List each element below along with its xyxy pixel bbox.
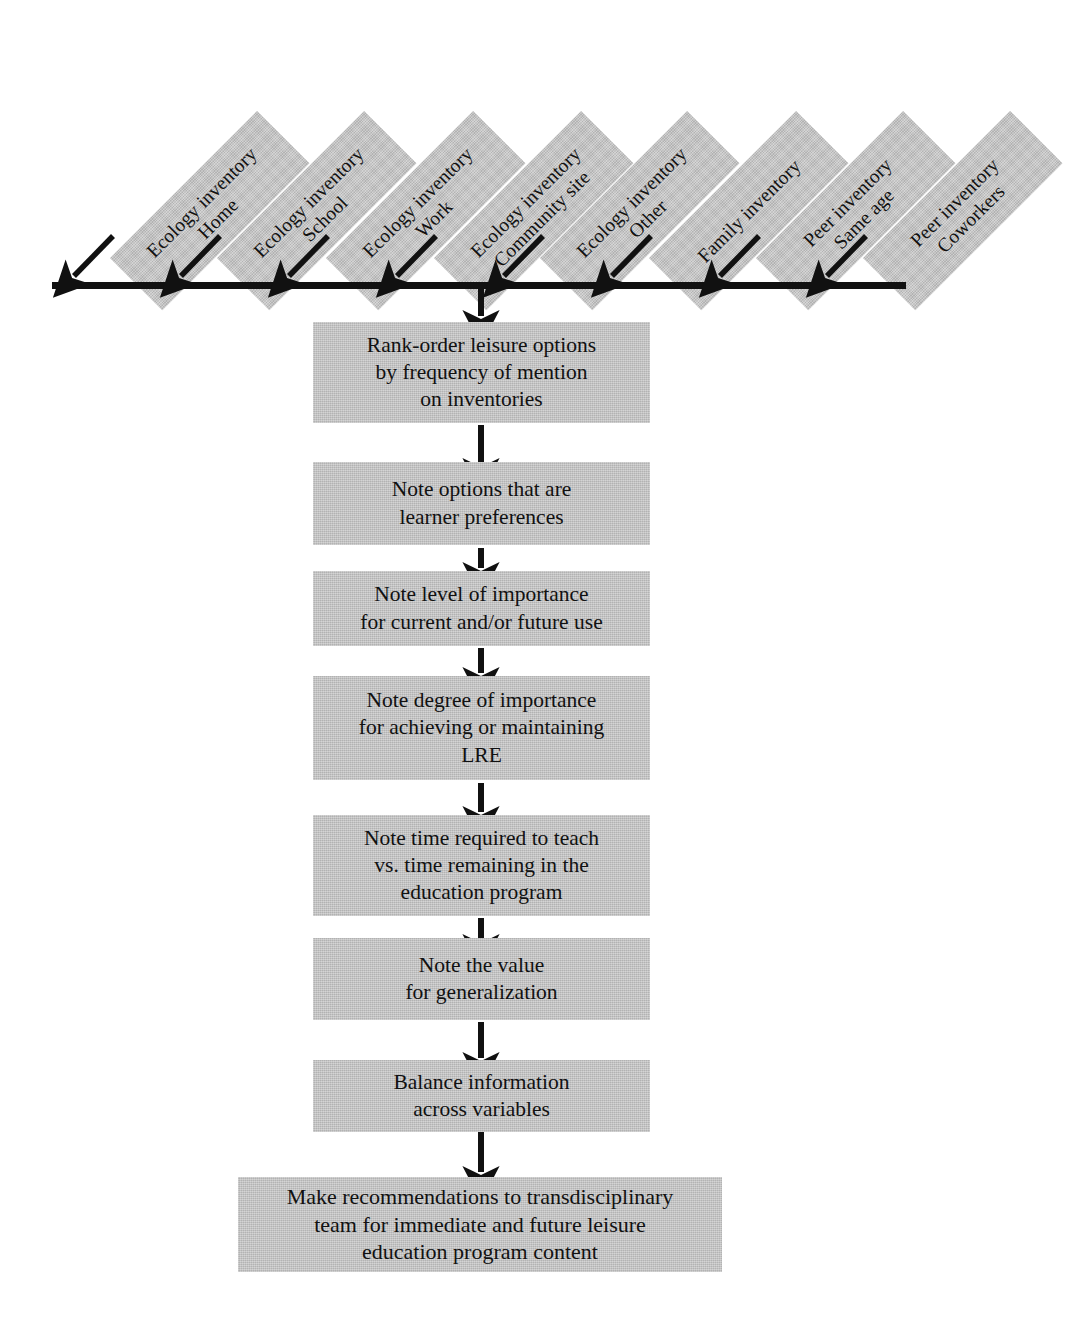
step-box-generalization: Note the value for generalization [313, 938, 650, 1020]
step-box-degree-importance: Note degree of importance for achieving … [313, 676, 650, 780]
step-text: Balance information across variables [385, 1069, 577, 1124]
step-box-rank-order: Rank-order leisure options by frequency … [313, 322, 650, 423]
step-text: Note options that are learner preference… [384, 476, 580, 531]
step-text: Note the value for generalization [397, 952, 565, 1007]
step-text: Note level of importance for current and… [352, 581, 610, 636]
step-box-recommendations: Make recommendations to transdisciplinar… [238, 1177, 722, 1272]
step-text: Make recommendations to transdisciplinar… [279, 1183, 682, 1267]
step-box-learner-prefs: Note options that are learner preference… [313, 462, 650, 545]
step-box-balance: Balance information across variables [313, 1060, 650, 1132]
step-text: Note time required to teach vs. time rem… [356, 825, 607, 907]
flowchart-canvas: Ecology inventory Home Ecology inventory… [0, 0, 1086, 1317]
step-box-level-importance: Note level of importance for current and… [313, 571, 650, 646]
step-box-time-required: Note time required to teach vs. time rem… [313, 815, 650, 916]
step-text: Note degree of importance for achieving … [351, 687, 612, 769]
inventory-sources-group: Ecology inventory Home Ecology inventory… [0, 0, 1086, 300]
step-text: Rank-order leisure options by frequency … [359, 332, 604, 414]
